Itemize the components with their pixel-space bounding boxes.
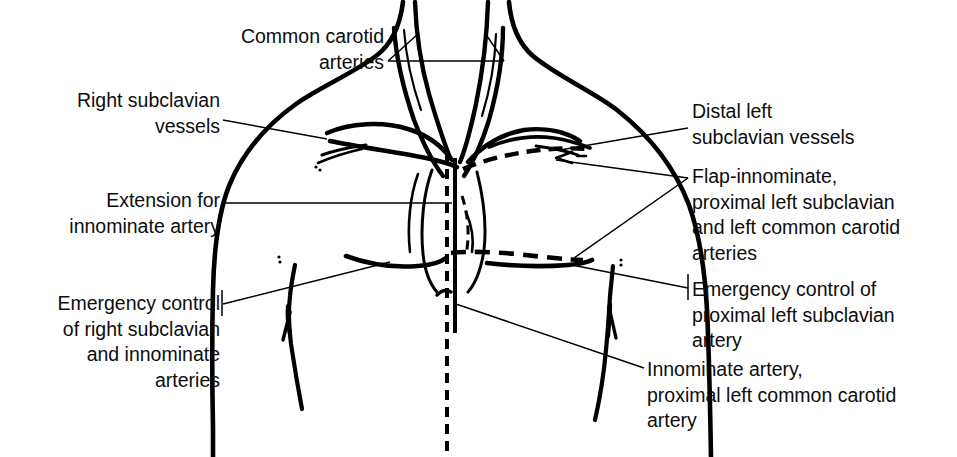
label-emergency-control-proximal-left-subclavian: Emergency control of proximal left subcl… bbox=[692, 277, 950, 354]
leader-emergency-right bbox=[223, 262, 390, 304]
arrow-incision-left-dot bbox=[619, 258, 622, 266]
label-right-subclavian-vessels: Right subclavian vessels bbox=[44, 88, 220, 139]
label-innominate-artery: Innominate artery, proximal left common … bbox=[647, 357, 953, 434]
mediastinum-contour-left bbox=[468, 172, 485, 292]
right-clavicle-dot-marks bbox=[314, 165, 321, 171]
label-flap-innominate: Flap-innominate, proximal left subclavia… bbox=[692, 164, 954, 266]
mediastinum-contour-right-2 bbox=[409, 174, 418, 252]
rib-margin-right bbox=[346, 256, 446, 267]
flap-incision-dashed bbox=[451, 252, 583, 260]
leader-flap-branch-b bbox=[574, 178, 688, 258]
anatomical-figure: Common carotid arteries Right subclavian… bbox=[0, 0, 957, 457]
mediastinum-contour-right bbox=[422, 170, 437, 292]
leader-emergency-left bbox=[572, 265, 688, 288]
label-emergency-control-right-subclavian: Emergency control of right subclavian an… bbox=[22, 291, 220, 393]
label-common-carotid-arteries: Common carotid arteries bbox=[199, 24, 384, 75]
aortic-arch-contour bbox=[462, 196, 468, 254]
arrow-incision-left-shaft bbox=[595, 266, 613, 420]
label-extension-for-innominate-artery: Extension for innominate artery bbox=[22, 188, 220, 239]
arrow-incision-right-dot bbox=[277, 255, 281, 263]
label-distal-left-subclavian-vessels: Distal left subclavian vessels bbox=[692, 99, 942, 150]
